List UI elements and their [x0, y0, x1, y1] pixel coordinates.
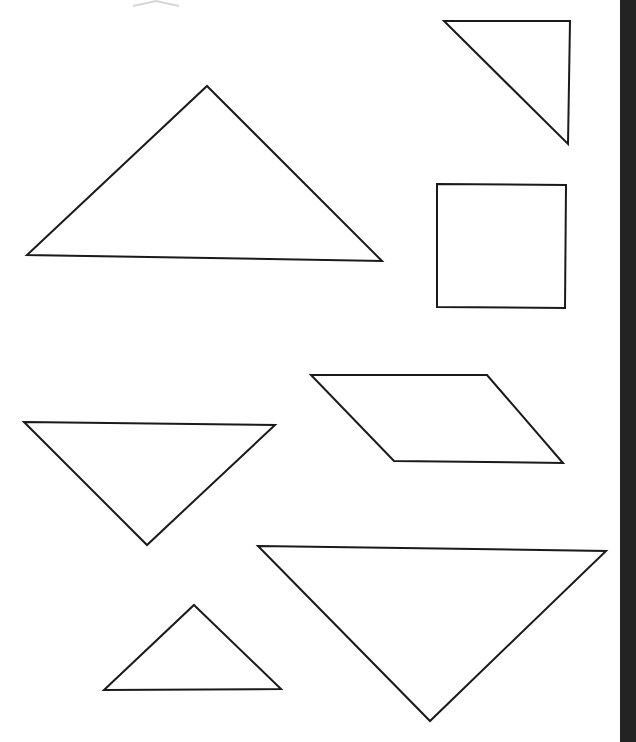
inverted-triangle-middle-left-icon — [24, 422, 275, 545]
worksheet-page — [0, 0, 636, 742]
square-right-icon — [437, 184, 566, 308]
large-inverted-triangle-bottom-right-icon — [258, 546, 606, 721]
scanner-edge-shadow — [620, 0, 636, 742]
small-triangle-bottom-left-icon — [104, 605, 281, 690]
shapes-canvas — [0, 0, 636, 742]
partial-shape-top-edge-icon — [133, 1, 179, 6]
parallelogram-middle-right-icon — [311, 375, 563, 463]
right-triangle-top-right-icon — [444, 21, 570, 144]
large-triangle-top-left-icon — [27, 86, 382, 261]
